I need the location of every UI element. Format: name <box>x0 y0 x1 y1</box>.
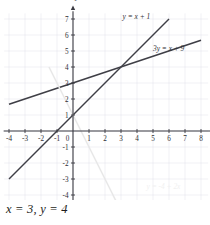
x-tick-label: 8 <box>199 135 203 143</box>
x-tick-label: 1 <box>87 135 91 143</box>
x-tick-label: 4 <box>135 135 139 143</box>
y-axis-label: y <box>75 0 80 1</box>
x-tick-label: -2 <box>38 135 44 143</box>
ghost-annotations: y = -4 + 2x <box>146 182 181 191</box>
x-tick-label: 5 <box>151 135 155 143</box>
ghost-label: y = -4 + 2x <box>146 182 181 191</box>
axes <box>4 5 210 200</box>
graph-svg: -4-3-2-1012345678 7654321-1-2-3-4-5 x y … <box>0 0 210 200</box>
series-label-0: y = x + 1 <box>122 12 151 21</box>
y-tick-label: 6 <box>65 32 69 40</box>
y-tick-label: 7 <box>65 16 69 24</box>
y-tick-label: 2 <box>65 96 69 104</box>
x-tick-label: -1 <box>54 135 60 143</box>
y-axis-arrow <box>71 5 75 9</box>
x-tick-label: 6 <box>167 135 171 143</box>
y-tick-label: 1 <box>65 112 69 120</box>
x-tick-label: 3 <box>119 135 123 143</box>
y-tick-label: -2 <box>63 160 69 168</box>
y-tick-label: 5 <box>65 48 69 56</box>
x-tick-label: 0 <box>66 135 70 143</box>
x-tick-label: 7 <box>183 135 187 143</box>
y-tick-label: 3 <box>65 80 69 88</box>
series-line-2 <box>49 67 121 200</box>
x-tick-label: 2 <box>103 135 107 143</box>
coordinate-plane-figure: -4-3-2-1012345678 7654321-1-2-3-4-5 x y … <box>0 0 210 200</box>
x-tick-label: -3 <box>22 135 28 143</box>
x-tick-label: -4 <box>6 135 12 143</box>
y-axis-tick-labels: 7654321-1-2-3-4-5 <box>63 16 69 200</box>
grid-lines <box>4 13 208 200</box>
solution-text: x = 3, y = 4 <box>6 202 68 217</box>
y-tick-label: 4 <box>65 64 69 72</box>
series-label-1: 3y = x + 9 <box>152 44 185 53</box>
y-tick-label: -3 <box>63 176 69 184</box>
y-tick-label: -1 <box>63 144 69 152</box>
x-axis-tick-labels: -4-3-2-1012345678 <box>6 135 203 143</box>
y-tick-label: -4 <box>63 192 69 200</box>
